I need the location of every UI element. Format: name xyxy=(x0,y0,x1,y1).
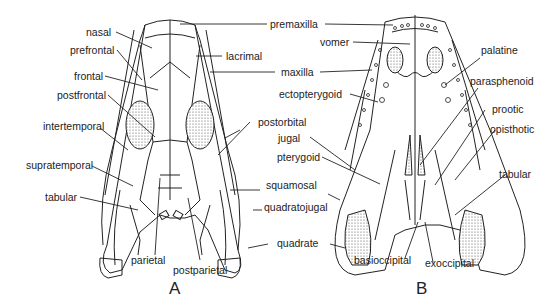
label-squamosal: squamosal xyxy=(266,180,317,191)
label-opisthotic: opisthotic xyxy=(490,124,534,135)
label-exoccipital: exoccipital xyxy=(425,258,474,269)
label-nasal: nasal xyxy=(86,27,111,38)
label-tabular-b: tabular xyxy=(499,169,531,180)
label-jugal: jugal xyxy=(278,133,300,144)
label-lacrimal: lacrimal xyxy=(226,51,262,62)
label-supratemporal: supratemporal xyxy=(26,160,93,171)
label-maxilla: maxilla xyxy=(281,67,314,78)
label-tabular-a: tabular xyxy=(45,192,77,203)
label-vomer: vomer xyxy=(320,37,349,48)
label-frontal: frontal xyxy=(74,71,103,82)
orbit-left-a xyxy=(126,101,154,149)
label-prootic: prootic xyxy=(492,104,524,115)
skull-a-outline xyxy=(100,20,241,278)
label-intertemporal: intertemporal xyxy=(43,121,104,132)
panel-b-letter: B xyxy=(416,280,427,297)
label-basioccipital: basioccipital xyxy=(354,255,411,266)
label-postfrontal: postfrontal xyxy=(57,90,106,101)
panel-a-letter: A xyxy=(169,280,180,297)
label-premaxilla: premaxilla xyxy=(270,19,318,30)
label-palatine: palatine xyxy=(481,45,518,56)
label-prefrontal: prefrontal xyxy=(70,45,114,56)
label-pterygoid: pterygoid xyxy=(277,152,320,163)
orbit-right-a xyxy=(186,101,214,149)
label-quadratojugal: quadratojugal xyxy=(264,202,328,213)
label-parietal: parietal xyxy=(131,255,165,266)
label-parasphenoid: parasphenoid xyxy=(470,76,534,87)
label-quadrate: quadrate xyxy=(277,238,318,249)
label-postorbital: postorbital xyxy=(258,117,306,128)
label-ectopterygoid: ectopterygoid xyxy=(279,89,342,100)
label-postparietal: postparietal xyxy=(173,265,227,276)
